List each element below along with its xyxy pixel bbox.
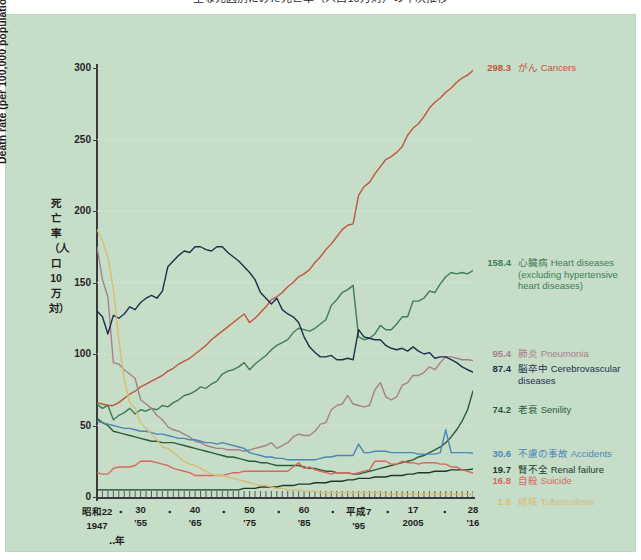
x-tick-label-jp: 30 [111,504,171,515]
x-tick-label-jp: 60 [274,504,334,515]
y-tick-label: 0 [45,491,91,502]
x-tick-label-group: 30'55 [111,504,171,528]
series-line [97,270,473,419]
series-name: 自殺 Suicide [518,475,572,487]
series-end-label: 19.7腎不全 Renal failure [481,464,604,476]
series-line [97,469,473,490]
series-line [97,230,473,495]
chart-screenshot: 主な死因別にみた死亡率（人口10万対）の年次推移 050100150200250… [0,0,641,560]
series-name: 結核 Tuberculosis [518,496,594,508]
series-end-value: 19.7 [481,464,511,476]
series-end-label: 298.3がん Cancers [481,62,576,74]
series-name: 心臓病 Heart diseases [518,257,614,269]
series-lines [97,68,473,497]
chart-title: 主な死因別にみた死亡率（人口10万対）の年次推移 [0,0,641,5]
series-name: 肺炎 Pneumonia [518,348,589,360]
series-line [97,247,473,372]
series-name: がん Cancers [518,62,576,74]
x-tick-label-jp: 50 [220,504,280,515]
series-end-value: 1.5 [481,496,511,508]
x-tick-label-en: '85 [274,517,334,528]
y-tick-label: 100 [45,348,91,359]
x-tick-label-jp: 40 [165,504,225,515]
series-end-label: 158.4心臓病 Heart diseases(excluding hypert… [481,257,618,292]
series-end-value: 30.6 [481,448,511,460]
x-tick-label-en: '16 [443,517,503,528]
series-end-value: 16.8 [481,475,511,487]
series-name-note: (excluding hypertensive [518,269,618,281]
x-tick-label-group: 40'65 [165,504,225,528]
series-name: 老衰 Senility [518,404,571,416]
series-name: 脳卒中 Cerebrovascular [518,363,620,375]
x-tick-label-en: '55 [111,517,171,528]
x-tick-label-en: '75 [220,517,280,528]
series-end-value: 87.4 [481,363,511,375]
series-end-label: 16.8自殺 Suicide [481,475,572,487]
y-tick-label: 50 [45,420,91,431]
x-tick-label-jp: 17 [383,504,443,515]
y-axis-label-jp: 死亡率（人口10万対） [49,196,63,316]
x-axis-year-note: ‥年 [109,533,125,547]
y-tick-label: 300 [45,62,91,73]
series-end-value: 298.3 [481,62,511,74]
plot-area [97,68,473,497]
series-end-label: 30.6不慮の事故 Accidents [481,448,612,460]
chart-title-strip: 主な死因別にみた死亡率（人口10万対）の年次推移 [0,0,641,14]
x-tick-label-group: 平成7'95 [329,504,389,531]
series-name-continued: diseases [518,375,620,387]
series-line [97,70,473,405]
x-tick-label-en: '65 [165,517,225,528]
series-end-value: 95.4 [481,348,511,360]
series-end-value: 74.2 [481,404,511,416]
series-end-label: 87.4脳卒中 Cerebrovasculardiseases [481,363,620,386]
series-name-note: heart diseases) [518,280,618,292]
series-line [97,421,473,460]
series-end-label: 95.4肺炎 Pneumonia [481,348,589,360]
y-tick-mark [93,497,98,498]
series-end-label: 1.5結核 Tuberculosis [481,496,594,508]
series-end-label: 74.2老衰 Senility [481,404,571,416]
x-tick-label-group: 172005 [383,504,443,528]
series-end-value: 158.4 [481,257,511,269]
x-tick-label-en: 2005 [383,517,443,528]
x-tick-label-group: 28'16 [443,504,503,528]
series-name: 腎不全 Renal failure [518,464,604,476]
x-tick-label-group: 50'75 [220,504,280,528]
x-tick-label-en: '95 [329,520,389,531]
y-axis-label-en: Death rate (per 100,000 population) [0,0,8,164]
chart-board: 050100150200250300 死亡率（人口10万対） Death rat… [5,14,636,552]
x-axis-line [96,497,475,499]
y-tick-label: 250 [45,134,91,145]
x-tick-label-group: 60'85 [274,504,334,528]
series-name: 不慮の事故 Accidents [518,448,612,460]
x-tick-label-jp: 平成7 [329,504,389,518]
